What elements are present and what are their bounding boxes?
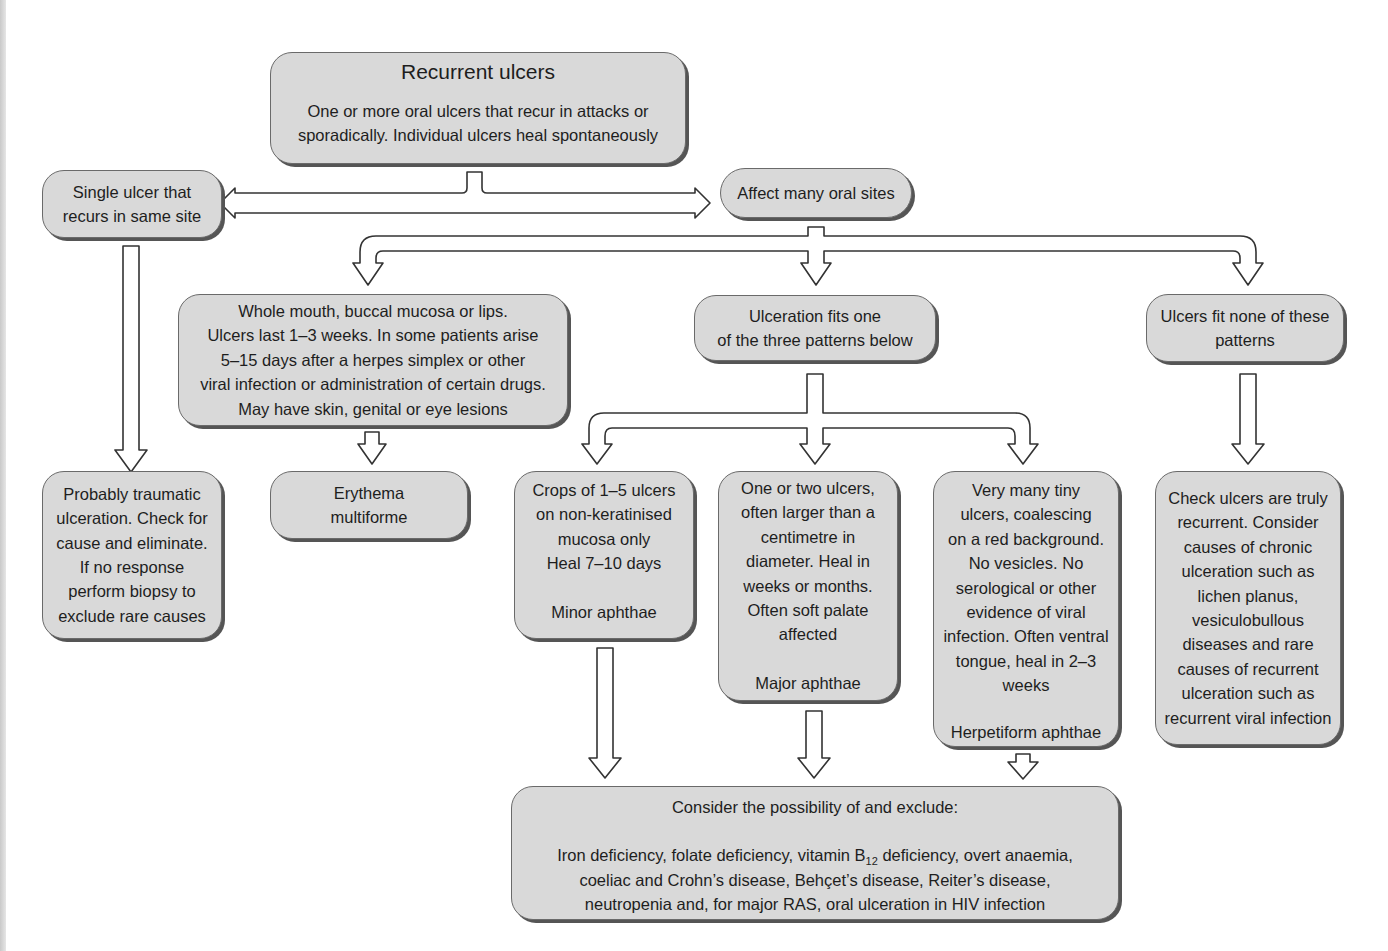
split-arrow-icon bbox=[353, 227, 1263, 285]
node-herpetiform-aphthae: Very many tiny ulcers, coalescing on a r… bbox=[933, 471, 1119, 747]
down-arrow-icon bbox=[358, 432, 386, 464]
node-affect-many-oral-sites: Affect many oral sites bbox=[720, 168, 912, 218]
node-minor-aphthae: Crops of 1–5 ulcers on non-keratinised m… bbox=[514, 471, 694, 639]
node-fits-none-patterns: Ulcers fit none of these patterns bbox=[1146, 294, 1344, 362]
split-arrow-icon bbox=[582, 374, 1038, 464]
node-heading: Consider the possibility of and exclude: bbox=[672, 795, 958, 819]
node-major-aphthae: One or two ulcers, often larger than a c… bbox=[718, 471, 898, 701]
diagnosis-label: Major aphthae bbox=[755, 671, 861, 695]
node-probably-traumatic: Probably traumatic ulceration. Check for… bbox=[42, 471, 222, 639]
double-arrow-icon bbox=[220, 172, 710, 218]
down-arrow-icon bbox=[1008, 754, 1038, 779]
diagnosis-label: Herpetiform aphthae bbox=[951, 720, 1101, 744]
down-arrow-icon bbox=[589, 648, 621, 778]
node-fits-three-patterns: Ulceration fits one of the three pattern… bbox=[694, 295, 936, 361]
down-arrow-icon bbox=[798, 711, 830, 778]
diagnosis-label: Minor aphthae bbox=[551, 600, 657, 624]
node-consider-and-exclude: Consider the possibility of and exclude:… bbox=[511, 786, 1119, 920]
node-title: Recurrent ulcers bbox=[401, 59, 555, 85]
node-check-truly-recurrent: Check ulcers are truly recurrent. Consid… bbox=[1155, 471, 1341, 745]
node-single-ulcer-same-site: Single ulcer that recurs in same site bbox=[42, 170, 222, 238]
down-arrow-icon bbox=[115, 246, 147, 472]
node-erythema-multiforme: Erythema multiforme bbox=[270, 471, 468, 539]
node-recurrent-ulcers: Recurrent ulcers One or more oral ulcers… bbox=[270, 52, 686, 164]
down-arrow-icon bbox=[1232, 374, 1264, 464]
node-whole-mouth-description: Whole mouth, buccal mucosa or lips. Ulce… bbox=[178, 294, 568, 426]
